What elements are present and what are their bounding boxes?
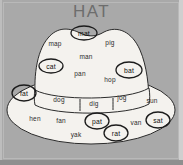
word-pat[interactable]: pat xyxy=(92,118,102,125)
word-mat[interactable]: mat xyxy=(78,30,90,37)
word-fat[interactable]: fat xyxy=(20,90,28,97)
word-man[interactable]: man xyxy=(79,53,92,60)
word-cat[interactable]: cat xyxy=(46,63,56,70)
word-fan[interactable]: fan xyxy=(56,117,66,124)
worksheet-canvas: HAT matmappigmancatpanhopbatfatdogdigjog… xyxy=(0,0,183,165)
word-sat[interactable]: sat xyxy=(153,117,163,124)
word-bat[interactable]: bat xyxy=(124,67,134,74)
word-hop[interactable]: hop xyxy=(104,76,115,83)
word-yak[interactable]: yak xyxy=(71,131,82,138)
word-dog[interactable]: dog xyxy=(53,96,64,103)
word-dig[interactable]: dig xyxy=(89,100,98,107)
word-pan[interactable]: pan xyxy=(74,70,85,77)
word-hen[interactable]: hen xyxy=(29,115,40,122)
word-rat[interactable]: rat xyxy=(112,130,121,137)
word-sun[interactable]: sun xyxy=(146,97,157,104)
word-jog[interactable]: jog xyxy=(117,94,126,101)
word-map[interactable]: map xyxy=(48,40,61,47)
hat-illustration xyxy=(0,0,183,165)
word-van[interactable]: van xyxy=(130,119,141,126)
word-pig[interactable]: pig xyxy=(105,39,114,46)
